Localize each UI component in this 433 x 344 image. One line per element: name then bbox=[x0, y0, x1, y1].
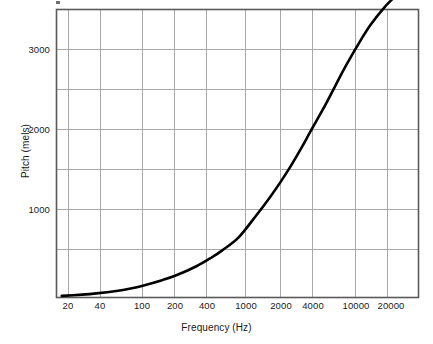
xtick-label-10000: 10000 bbox=[343, 300, 370, 311]
chart-figure: 20 40 100 200 400 1000 2000 4000 10000 2… bbox=[0, 0, 433, 344]
plot-canvas bbox=[0, 0, 433, 344]
xtick-label-20: 20 bbox=[63, 300, 74, 311]
xtick-label-400: 400 bbox=[199, 300, 215, 311]
plot-background bbox=[57, 10, 419, 298]
xtick-label-2000: 2000 bbox=[270, 300, 292, 311]
xtick-label-200: 200 bbox=[167, 300, 183, 311]
xtick-label-100: 100 bbox=[134, 300, 150, 311]
y-axis-title: Pitch (mels) bbox=[20, 124, 31, 178]
xtick-label-20000: 20000 bbox=[378, 300, 405, 311]
x-axis-title: Frequency (Hz) bbox=[0, 322, 433, 333]
xtick-label-40: 40 bbox=[95, 300, 106, 311]
xtick-label-1000: 1000 bbox=[235, 300, 257, 311]
xtick-label-4000: 4000 bbox=[302, 300, 324, 311]
ytick-label-3000: 3000 bbox=[16, 44, 50, 55]
y-axis-title-wrapper: Pitch (mels) bbox=[15, 91, 33, 211]
